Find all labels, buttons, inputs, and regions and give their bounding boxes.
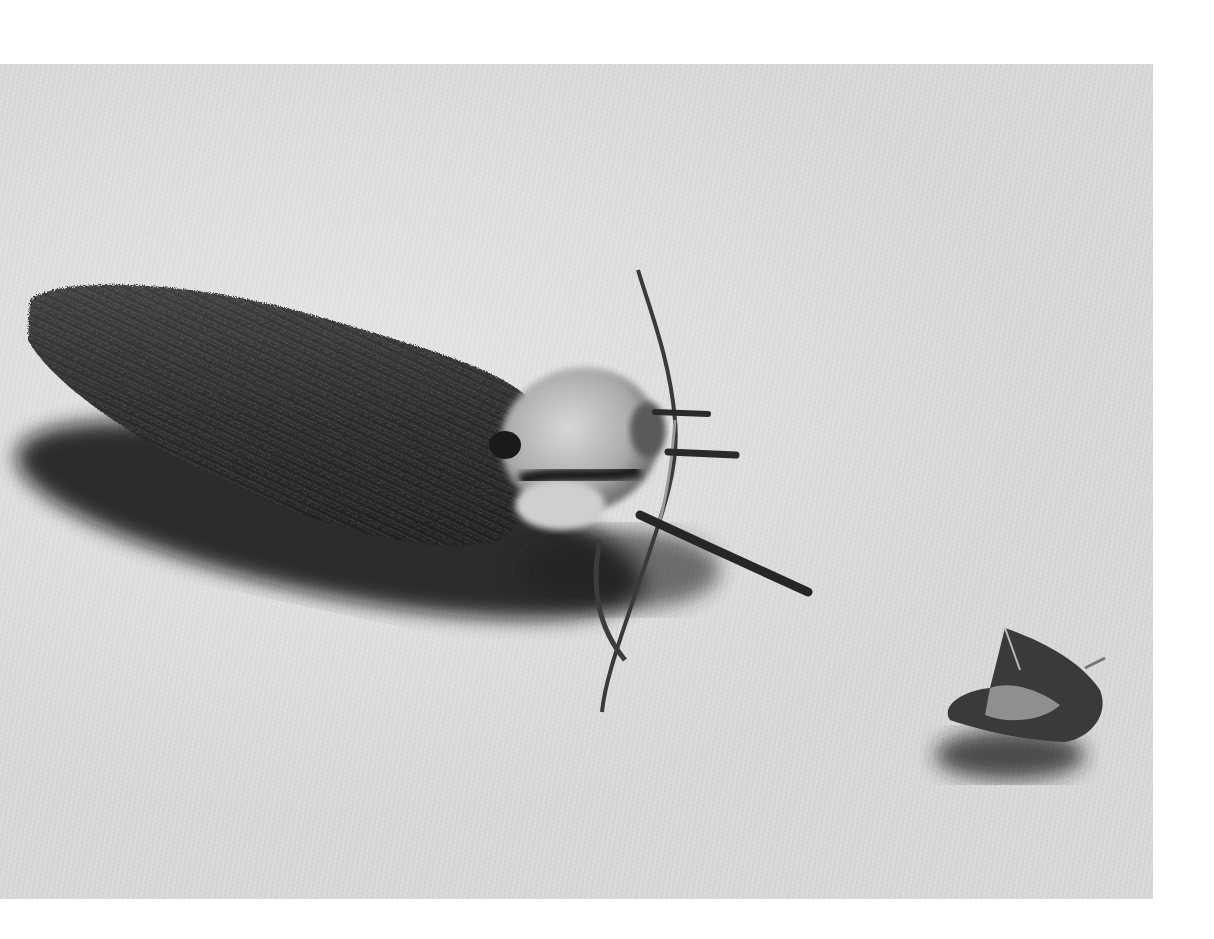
- leg-1: [655, 412, 708, 414]
- leg-2: [668, 452, 736, 455]
- photo-scene: [0, 64, 1153, 899]
- photograph: [0, 64, 1153, 899]
- shell-fragment: [935, 628, 1105, 780]
- moth: [484, 270, 808, 712]
